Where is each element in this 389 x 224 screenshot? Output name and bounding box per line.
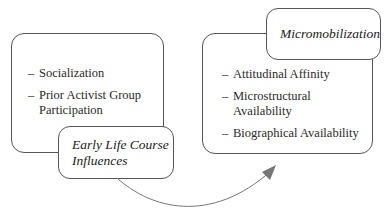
arrowhead-icon: [262, 165, 276, 180]
curved-arrow-connector: [0, 0, 389, 224]
